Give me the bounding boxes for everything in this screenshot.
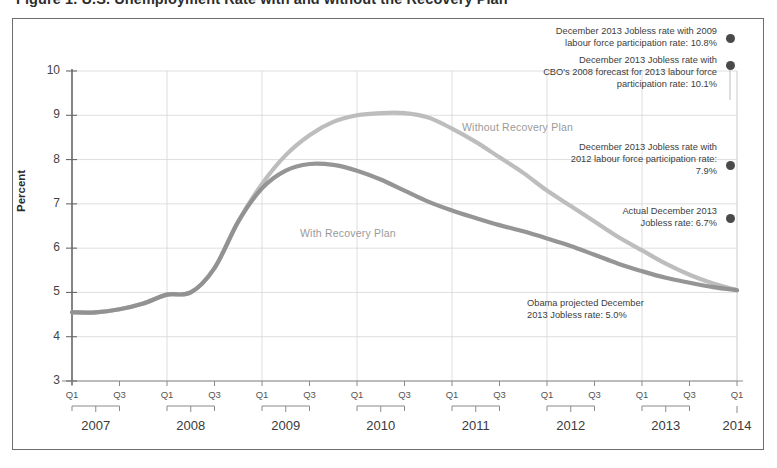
x-year-label-2008: 2008 (156, 418, 226, 433)
x-quarter-label-2011-Q3: Q3 (489, 389, 511, 400)
y-tick-label-7: 7 (34, 196, 60, 210)
x-year-label-2014: 2014 (702, 418, 772, 433)
y-tick-label-5: 5 (34, 284, 60, 298)
x-quarter-label-2008-Q1: Q1 (156, 389, 178, 400)
annotation-2012-participation-rate: December 2013 Jobless rate with 2012 lab… (520, 141, 717, 178)
x-year-label-2010: 2010 (346, 418, 416, 433)
annotation-marker-dot-10-8 (726, 34, 735, 43)
x-year-label-2007: 2007 (61, 418, 131, 433)
y-tick-label-6: 6 (34, 240, 60, 254)
y-tick-label-3: 3 (34, 373, 60, 387)
annotation-cbo-2008-forecast: December 2013 Jobless rate with CBO's 20… (497, 54, 717, 91)
y-tick-label-10: 10 (34, 63, 60, 77)
x-quarter-label-2013-Q3: Q3 (679, 389, 701, 400)
x-year-label-2009: 2009 (251, 418, 321, 433)
x-quarter-label-2014-Q1: Q1 (726, 389, 748, 400)
series-label-with-recovery-plan: With Recovery Plan (300, 227, 396, 239)
x-quarter-label-2010-Q1: Q1 (346, 389, 368, 400)
y-tick-label-4: 4 (34, 329, 60, 343)
y-tick-label-9: 9 (34, 107, 60, 121)
figure-title: Figure 1. U.S. Unemployment Rate with an… (16, 0, 508, 7)
y-tick-label-8: 8 (34, 152, 60, 166)
x-year-label-2012: 2012 (536, 418, 606, 433)
x-quarter-label-2012-Q3: Q3 (584, 389, 606, 400)
x-quarter-label-2009-Q1: Q1 (251, 389, 273, 400)
x-quarter-label-2007-Q3: Q3 (109, 389, 131, 400)
series-label-without-recovery-plan: Without Recovery Plan (462, 121, 573, 133)
annotation-obama-projected-rate: Obama projected December 2013 Jobless ra… (527, 297, 687, 321)
x-quarter-label-2008-Q3: Q3 (204, 389, 226, 400)
annotation-actual-jobless-rate: Actual December 2013 Jobless rate: 6.7% (560, 205, 717, 229)
x-quarter-label-2013-Q1: Q1 (631, 389, 653, 400)
y-axis-title: Percent (15, 170, 27, 212)
annotation-marker-dot-7-9 (726, 161, 735, 170)
x-quarter-label-2007-Q1: Q1 (61, 389, 83, 400)
annotation-2009-participation-rate: December 2013 Jobless rate with 2009 lab… (512, 25, 717, 49)
x-quarter-label-2011-Q1: Q1 (441, 389, 463, 400)
x-quarter-label-2009-Q3: Q3 (299, 389, 321, 400)
x-year-label-2013: 2013 (631, 418, 701, 433)
x-quarter-label-2012-Q1: Q1 (536, 389, 558, 400)
x-quarter-label-2010-Q3: Q3 (394, 389, 416, 400)
x-year-label-2011: 2011 (441, 418, 511, 433)
annotation-marker-dot-10-1 (726, 61, 735, 70)
annotation-marker-dot-6-7 (726, 214, 735, 223)
